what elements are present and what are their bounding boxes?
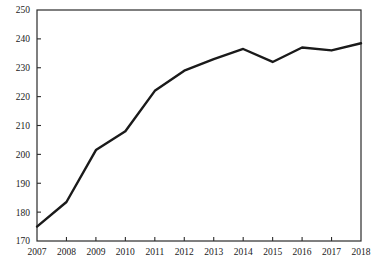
x-axis-tick-label: 2009 [86,247,105,257]
x-axis-tick-label: 2013 [204,247,223,257]
y-axis-tick-label: 190 [16,179,31,189]
x-axis-tick-label: 2015 [263,247,282,257]
y-axis-tick-label: 210 [16,121,31,131]
x-axis-tick-label: 2012 [175,247,194,257]
y-axis-tick-label: 170 [16,236,31,246]
chart-background [0,0,377,270]
x-axis-tick-label: 2011 [145,247,164,257]
y-axis-tick-label: 200 [16,150,31,160]
y-axis-tick-label: 220 [16,92,31,102]
y-axis-tick-label: 180 [16,208,31,218]
y-axis-tick-label: 250 [16,5,31,15]
chart-canvas: 170180190200210220230240250 200720082009… [0,0,377,270]
y-axis-tick-label: 230 [16,63,31,73]
x-axis-tick-label: 2010 [116,247,135,257]
y-axis-tick-labels: 170180190200210220230240250 [16,5,31,246]
x-axis-tick-label: 2008 [57,247,76,257]
x-axis-tick-label: 2017 [322,247,341,257]
y-axis-tick-label: 240 [16,34,31,44]
x-axis-tick-label: 2018 [352,247,371,257]
x-axis-tick-label: 2016 [293,247,312,257]
x-axis-tick-label: 2007 [28,247,47,257]
x-axis-tick-label: 2014 [234,247,253,257]
line-chart: 170180190200210220230240250 200720082009… [0,0,377,270]
